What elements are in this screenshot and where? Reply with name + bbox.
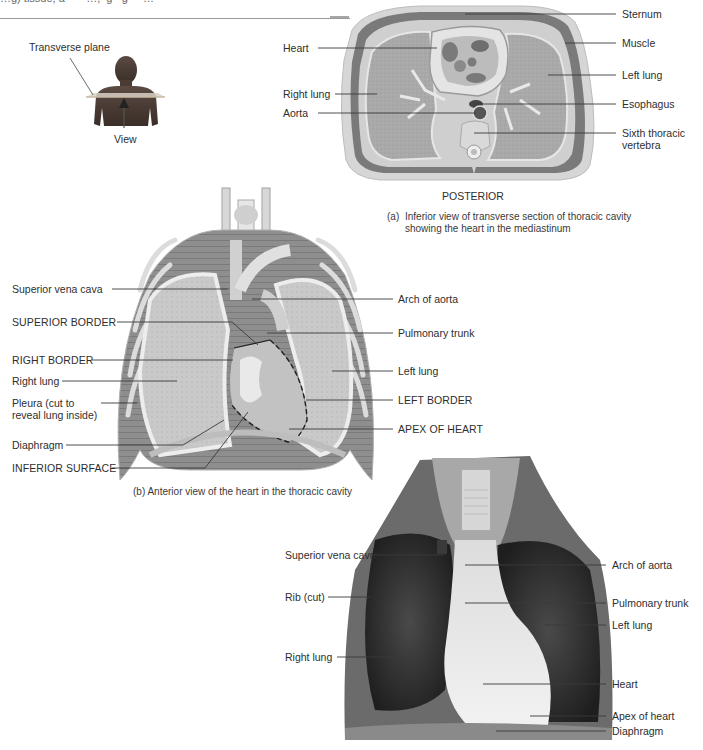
label-arch-of-aorta-c: Arch of aorta bbox=[612, 559, 672, 571]
label-apex-of-heart-c: Apex of heart bbox=[612, 710, 674, 722]
label-left-lung-c: Left lung bbox=[612, 619, 652, 631]
label-superior-vena-cava-c: Superior vena cava bbox=[285, 549, 375, 561]
cadaver-thorax-photo bbox=[0, 0, 703, 750]
label-diaphragm-c: Diaphragm bbox=[612, 725, 663, 737]
label-heart-c: Heart bbox=[612, 678, 638, 690]
label-pulmonary-trunk-c: Pulmonary trunk bbox=[612, 597, 688, 609]
label-right-lung-c: Right lung bbox=[285, 651, 332, 663]
label-rib-cut: Rib (cut) bbox=[285, 591, 325, 603]
